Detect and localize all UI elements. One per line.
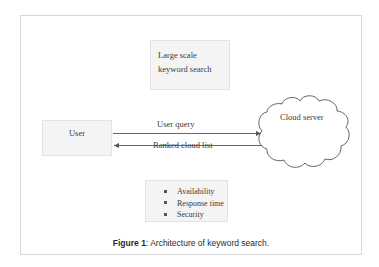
large-scale-keyword-search-box: Large scale keyword search <box>150 40 230 90</box>
bullet-square-icon <box>164 201 167 204</box>
list-item: Security <box>164 209 227 221</box>
user-query-label: User query <box>157 119 195 129</box>
qos-attributes-box: Availability Response time Security <box>145 180 228 222</box>
qos-item-label: Security <box>177 210 204 219</box>
caption-text: Architecture of keyword search. <box>150 238 269 248</box>
qos-list: Availability Response time Security <box>146 186 227 221</box>
figure-page: Large scale keyword search User Availabi… <box>0 0 379 267</box>
user-box-label: User <box>43 128 111 138</box>
ranked-cloud-list-label: Ranked cloud list <box>153 140 213 150</box>
figure-number: Figure 1 <box>113 238 146 248</box>
user-box: User <box>42 120 112 156</box>
figure-caption: Figure 1: Architecture of keyword search… <box>20 238 362 248</box>
list-item: Availability <box>164 186 227 198</box>
list-item: Response time <box>164 198 227 210</box>
large-scale-line-1: Large scale <box>158 48 229 62</box>
bullet-square-icon <box>164 213 167 216</box>
cloud-server-label: Cloud server <box>280 112 324 122</box>
qos-item-label: Availability <box>177 187 215 196</box>
qos-item-label: Response time <box>177 199 224 208</box>
bullet-square-icon <box>164 190 167 193</box>
large-scale-line-2: keyword search <box>158 62 229 76</box>
